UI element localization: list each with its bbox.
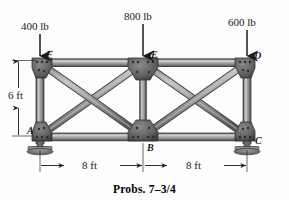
load-label-600lb: 600 lb — [228, 17, 256, 28]
joint-label-E: E — [151, 50, 158, 60]
joint-label-C: C — [255, 136, 262, 146]
joint-gusset-C — [235, 122, 255, 141]
dimension-label-span-left: 8 ft — [80, 160, 99, 171]
joint-label-B: B — [147, 143, 154, 153]
joint-gusset-A — [32, 122, 52, 141]
truss-figure: 400 lb 800 lb 600 lb F E D A B C 6 ft 8 … — [0, 0, 289, 200]
load-label-400lb: 400 lb — [21, 21, 49, 32]
dimension-label-span-right: 8 ft — [184, 160, 203, 171]
figure-caption: Probs. 7–3/4 — [0, 183, 289, 195]
load-label-800lb: 800 lb — [124, 11, 152, 22]
joint-label-D: D — [254, 51, 261, 61]
joint-label-F: F — [46, 50, 53, 60]
joint-gusset-E — [128, 58, 158, 80]
joint-gusset-D — [235, 58, 255, 78]
dimension-label-height: 6 ft — [6, 90, 25, 101]
joint-gusset-B — [128, 120, 158, 141]
joint-gusset-F — [32, 58, 52, 78]
joint-label-A: A — [27, 126, 34, 136]
